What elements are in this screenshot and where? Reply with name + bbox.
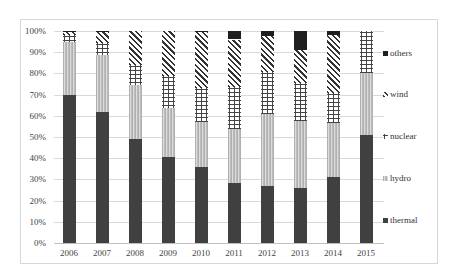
thermal-swatch-icon [383, 218, 388, 223]
segment-nuclear [261, 72, 274, 114]
segment-hydro [261, 114, 274, 186]
segment-nuclear [195, 88, 208, 122]
segment-wind [294, 50, 307, 83]
segment-wind [162, 31, 175, 76]
segment-wind [327, 35, 340, 93]
segment-thermal [360, 135, 373, 243]
x-tick-label: 2006 [52, 248, 86, 258]
segment-thermal [327, 177, 340, 243]
legend-item-thermal: thermal [383, 215, 418, 225]
legend-label: thermal [390, 215, 418, 225]
segment-others [63, 31, 76, 32]
wind-swatch-icon [383, 92, 388, 97]
y-tick-label: 0% [22, 238, 46, 248]
segment-hydro [63, 42, 76, 95]
segment-thermal [162, 157, 175, 243]
bar-2011 [228, 31, 241, 243]
x-axis-line [54, 243, 384, 244]
segment-nuclear [360, 31, 373, 73]
legend-label: others [390, 48, 412, 58]
bar-2007 [96, 31, 109, 243]
segment-others [294, 31, 307, 50]
segment-thermal [63, 95, 76, 243]
segment-nuclear [294, 83, 307, 121]
y-tick-label: 100% [22, 26, 46, 36]
segment-wind [261, 36, 274, 72]
segment-hydro [162, 108, 175, 157]
y-tick-label: 10% [22, 217, 46, 227]
segment-hydro [195, 122, 208, 167]
segment-nuclear [162, 76, 175, 108]
y-tick-label: 50% [22, 132, 46, 142]
x-tick-label: 2014 [316, 248, 350, 258]
bar-2008 [129, 31, 142, 243]
x-tick-label: 2013 [283, 248, 317, 258]
segment-nuclear [129, 65, 142, 85]
bar-2013 [294, 31, 307, 243]
segment-thermal [195, 167, 208, 243]
segment-thermal [129, 139, 142, 243]
others-swatch-icon [383, 51, 388, 56]
bar-2009 [162, 31, 175, 243]
y-tick-label: 80% [22, 68, 46, 78]
x-tick-label: 2012 [250, 248, 284, 258]
x-tick-label: 2007 [85, 248, 119, 258]
segment-nuclear [96, 43, 109, 55]
y-tick-label: 30% [22, 174, 46, 184]
segment-wind [228, 40, 241, 88]
segment-wind [96, 32, 109, 43]
segment-wind [129, 31, 142, 65]
y-tick-label: 40% [22, 153, 46, 163]
hydro-swatch-icon [383, 176, 388, 181]
y-tick-label: 70% [22, 90, 46, 100]
segment-thermal [228, 183, 241, 243]
legend-item-wind: wind [383, 89, 408, 99]
legend-item-hydro: hydro [383, 173, 411, 183]
legend-label: wind [390, 89, 408, 99]
segment-others [195, 31, 208, 32]
segment-hydro [228, 129, 241, 183]
bar-2015 [360, 31, 373, 243]
legend-label: nuclear [390, 131, 416, 141]
legend-item-others: others [383, 48, 412, 58]
bar-2010 [195, 31, 208, 243]
legend-label: hydro [390, 173, 411, 183]
segment-hydro [360, 73, 373, 134]
legend-item-nuclear: nuclear [383, 131, 416, 141]
segment-wind [195, 32, 208, 88]
bar-2014 [327, 31, 340, 243]
y-tick-label: 60% [22, 111, 46, 121]
x-tick-label: 2011 [217, 248, 251, 258]
x-tick-label: 2009 [151, 248, 185, 258]
bar-2006 [63, 31, 76, 243]
segment-others [327, 31, 340, 35]
bar-2012 [261, 31, 274, 243]
segment-thermal [294, 188, 307, 243]
plot-area [54, 31, 384, 243]
nuclear-swatch-icon [383, 134, 388, 139]
segment-others [228, 31, 241, 39]
segment-thermal [96, 112, 109, 243]
segment-wind [63, 32, 76, 35]
segment-nuclear [228, 87, 241, 128]
segment-others [96, 31, 109, 32]
segment-hydro [294, 121, 307, 188]
x-tick-label: 2010 [184, 248, 218, 258]
segment-hydro [129, 85, 142, 139]
segment-hydro [327, 123, 340, 177]
y-tick-label: 20% [22, 196, 46, 206]
segment-nuclear [63, 35, 76, 42]
segment-thermal [261, 186, 274, 243]
segment-nuclear [327, 93, 340, 123]
segment-hydro [96, 55, 109, 111]
x-tick-label: 2015 [349, 248, 383, 258]
x-tick-label: 2008 [118, 248, 152, 258]
y-tick-label: 90% [22, 47, 46, 57]
segment-others [261, 31, 274, 36]
